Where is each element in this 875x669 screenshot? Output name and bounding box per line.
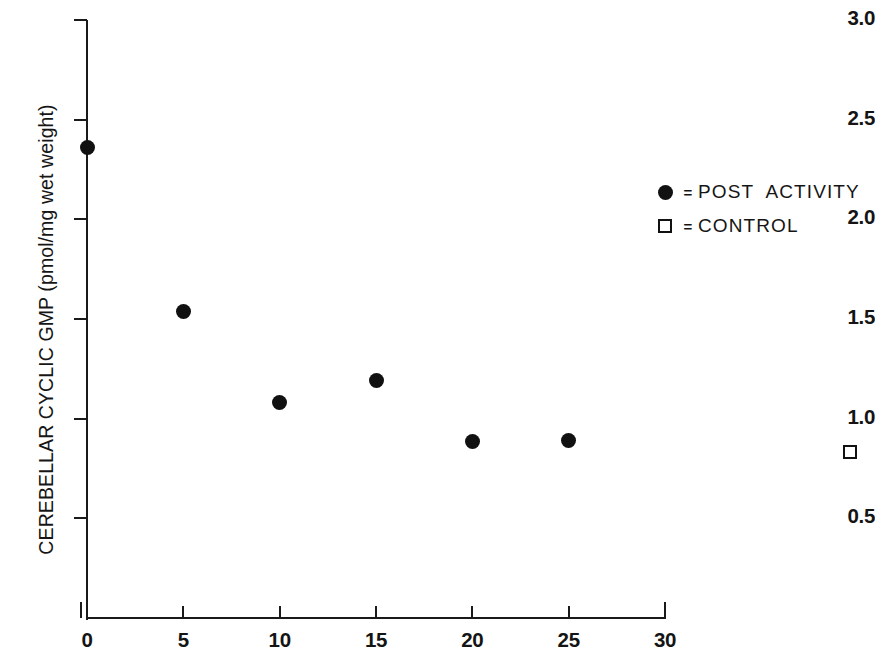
y-axis-tick [74, 218, 86, 220]
legend-equals-sign: = [678, 184, 698, 201]
legend-item-control: = CONTROL [652, 209, 867, 243]
y-axis-tick-label: 0.5 [813, 504, 875, 528]
plot-area: 0.51.01.52.02.53.0 051015202530 CEREBELL… [0, 0, 875, 669]
data-point-filled-circle [369, 373, 384, 388]
data-point-filled-circle [80, 140, 95, 155]
x-axis-tick-label: 10 [250, 628, 310, 652]
y-axis-tick [74, 119, 86, 121]
data-point-filled-circle [465, 434, 480, 449]
y-axis-tick-label: 2.5 [813, 106, 875, 130]
legend-item-post-activity: = POST ACTIVITY [652, 175, 867, 209]
chart-legend: = POST ACTIVITY = CONTROL [652, 175, 867, 243]
y-axis-tick-label: 1.0 [813, 405, 875, 429]
legend-label-control: CONTROL [698, 215, 799, 237]
y-axis-line [86, 20, 88, 620]
x-axis-right-cap [664, 602, 666, 618]
filled-circle-icon [652, 185, 678, 200]
y-axis-tick [74, 318, 86, 320]
x-axis-tick [279, 606, 281, 618]
y-axis-tick [74, 418, 86, 420]
x-axis-origin-cap [80, 602, 82, 618]
x-axis-tick [471, 606, 473, 618]
y-axis-tick [74, 517, 86, 519]
y-axis-tick [74, 19, 86, 21]
x-axis-tick-label: 0 [57, 628, 117, 652]
x-axis-tick [182, 606, 184, 618]
y-axis-tick-label: 3.0 [813, 6, 875, 30]
legend-equals-sign: = [678, 218, 698, 235]
x-axis-tick-label: 20 [442, 628, 502, 652]
x-axis-tick [568, 606, 570, 618]
legend-label-post-activity: POST ACTIVITY [698, 181, 860, 203]
x-axis-tick-label: 5 [153, 628, 213, 652]
data-point-filled-circle [272, 395, 287, 410]
data-point-open-square [843, 445, 857, 459]
data-point-filled-circle [561, 433, 576, 448]
x-axis-tick [375, 606, 377, 618]
x-axis-tick-label: 25 [539, 628, 599, 652]
x-axis-tick-label: 30 [635, 628, 695, 652]
x-axis-tick-label: 15 [346, 628, 406, 652]
data-point-filled-circle [176, 304, 191, 319]
chart-figure: 0.51.01.52.02.53.0 051015202530 CEREBELL… [0, 0, 875, 669]
open-square-icon [652, 219, 678, 233]
y-axis-title: CEREBELLAR CYCLIC GMP (pmol/mg wet weigh… [35, 70, 58, 590]
y-axis-tick-label: 1.5 [813, 305, 875, 329]
